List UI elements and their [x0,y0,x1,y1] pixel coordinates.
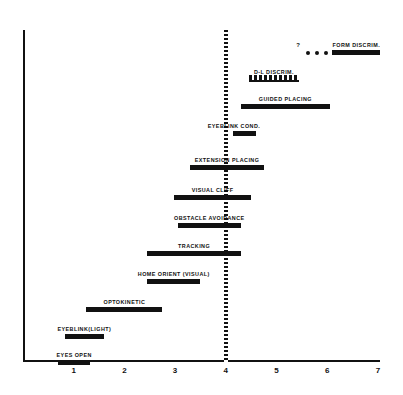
bar-label: TRACKING [178,243,210,249]
bar-group[interactable]: OPTOKINETIC [86,300,162,312]
bar-group[interactable]: EYEBLINK COND. [233,124,256,136]
x-tick-label: 4 [224,366,228,375]
bar-label: EXTENSION PLACING [195,157,260,163]
x-tick-label: 6 [325,366,329,375]
uncertainty-dots [306,50,328,55]
bar-label: EYEBLINK(LIGHT) [57,326,111,332]
query-mark-icon: ? [296,42,300,48]
bar-label: HOME ORIENT (VISUAL) [138,271,210,277]
bar-range[interactable] [332,50,380,55]
bar-group[interactable]: OBSTACLE AVOIDANCE [178,216,241,228]
bar-group[interactable]: EYEBLINK(LIGHT) [65,327,105,339]
bar-group[interactable]: GUIDED PLACING [241,97,330,109]
bar-group[interactable]: VISUAL CLIFF [174,188,251,200]
bar-range[interactable] [249,75,300,82]
bar-range[interactable] [147,251,241,256]
bar-group[interactable]: EXTENSION PLACING [190,158,264,170]
bar-label: GUIDED PLACING [259,96,312,102]
x-tick-label: 1 [71,366,75,375]
bar-range[interactable] [241,104,330,109]
bar-group[interactable]: EYES OPEN [58,353,89,365]
bar-range[interactable] [190,165,264,170]
bar-range[interactable] [233,131,256,136]
bar-range[interactable] [174,195,251,200]
bar-range[interactable] [86,307,162,312]
uncertainty-dot [324,51,328,55]
x-tick-label: 5 [274,366,278,375]
chart-figure: FORM DISCRIM.?D-L DISCRIM.GUIDED PLACING… [0,0,403,395]
x-tick-label: 3 [173,366,177,375]
uncertainty-dot [315,51,319,55]
bar-range[interactable] [65,334,105,339]
bar-label: EYEBLINK COND. [208,123,260,129]
x-tick-label: 7 [376,366,380,375]
bar-label: OPTOKINETIC [104,299,146,305]
bar-label: FORM DISCRIM. [333,42,380,48]
bar-group[interactable]: FORM DISCRIM.? [332,43,380,55]
uncertainty-dot [306,51,310,55]
bar-label: VISUAL CLIFF [192,187,234,193]
bar-range[interactable] [147,279,200,284]
bar-group[interactable]: TRACKING [147,244,241,256]
bar-range[interactable] [178,223,241,228]
x-tick-label: 2 [122,366,126,375]
bar-label: OBSTACLE AVOIDANCE [174,215,245,221]
bar-group[interactable]: D-L DISCRIM. [249,70,300,82]
bar-range[interactable] [58,360,89,365]
y-axis-line [23,30,25,362]
bar-group[interactable]: HOME ORIENT (VISUAL) [147,272,200,284]
bar-label: EYES OPEN [57,352,92,358]
